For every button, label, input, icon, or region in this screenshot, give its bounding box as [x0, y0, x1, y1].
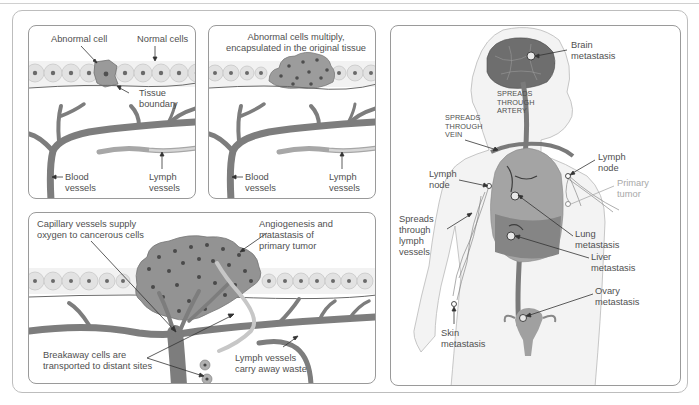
- panel-angiogenesis: Capillary vessels supply oxygen to cance…: [28, 212, 376, 384]
- encapsulated-tumor: [269, 52, 335, 88]
- label-spreads-through-vein: SPREADS THROUGH VEIN: [445, 114, 483, 140]
- lymph-node-right-marker: [566, 174, 571, 179]
- label-brain-metastasis: Brain metastasis: [571, 40, 615, 62]
- label-capillary-vessels: Capillary vessels supply oxygen to cance…: [37, 219, 144, 241]
- panel-body-metastasis: Brain metastasis SPREADS THROUGH ARTERY …: [390, 25, 681, 386]
- label-lymph-vessels-b: Lymph vessels: [329, 172, 360, 194]
- label-spreads-through-lymph-vessels: Spreads through lymph vessels: [399, 214, 434, 258]
- label-caption-encapsulated: Abnormal cells multiply, encapsulated in…: [221, 32, 371, 54]
- ovary-metastasis-marker: [520, 315, 527, 322]
- label-lymph-waste: Lymph vessels carry away waste: [235, 353, 307, 375]
- top-rule: [0, 3, 699, 4]
- label-skin-metastasis: Skin metastasis: [441, 328, 485, 350]
- label-lung-metastasis: Lung metastasis: [575, 229, 619, 251]
- label-blood-vessels-b: Blood vessels: [245, 172, 276, 194]
- lung-metastasis-marker: [511, 192, 519, 200]
- label-lymph-node-right: Lymph node: [598, 152, 626, 174]
- skin-metastasis-marker: [452, 302, 457, 307]
- label-breakaway-cells: Breakaway cells are transported to dista…: [43, 350, 152, 372]
- panel-encapsulated: Abnormal cells multiply, encapsulated in…: [208, 25, 376, 199]
- label-angiogenesis: Angiogenesis and matastasis of primary t…: [259, 219, 333, 252]
- label-spreads-through-artery: SPREADS THROUGH ARTERY: [497, 90, 535, 116]
- primary-tumor-marker: [566, 202, 571, 207]
- label-lymph-vessels: Lymph vessels: [149, 172, 180, 194]
- label-liver-metastasis: Liver metastasis: [591, 252, 635, 274]
- label-blood-vessels: Blood vessels: [65, 172, 96, 194]
- label-primary-tumor: Primary tumor: [617, 178, 649, 200]
- panel-normal-tissue: Abnormal cell Normal cells Tissue bounda…: [28, 25, 196, 199]
- liver-metastasis-marker: [507, 232, 515, 240]
- label-abnormal-cell: Abnormal cell: [51, 34, 107, 45]
- body-illustration: [391, 26, 681, 386]
- label-normal-cells: Normal cells: [137, 34, 188, 45]
- label-tissue-boundary: Tissue boundary: [139, 88, 178, 110]
- brain: [487, 38, 555, 89]
- label-lymph-node-left: Lymph node: [429, 169, 457, 191]
- brain-metastasis-marker: [527, 52, 535, 60]
- label-ovary-metastasis: Ovary metastasis: [595, 286, 639, 308]
